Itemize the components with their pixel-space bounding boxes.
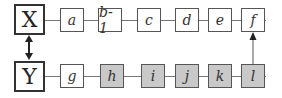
node-g: g [60,64,84,88]
node-b-1: b-1 [98,8,122,32]
node-h: h [100,64,124,88]
node-d: d [175,8,199,32]
node-l: l [241,64,265,88]
node-x: X [14,4,45,35]
l-to-f-arrow [250,32,257,64]
node-c: c [137,8,161,32]
node-y: Y [14,61,45,92]
node-e: e [208,8,232,32]
x-y-bidirectional-arrow [25,35,33,60]
node-k: k [208,64,232,88]
node-j: j [175,64,199,88]
node-a: a [60,8,84,32]
node-f: f [241,8,265,32]
node-i: i [141,64,165,88]
